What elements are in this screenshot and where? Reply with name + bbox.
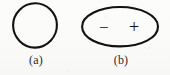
figure-panel-b: − + (b): [72, 0, 170, 75]
figure-panel-a: (a): [0, 0, 72, 75]
plus-sign: +: [129, 18, 139, 36]
plain-circle-shape: [0, 0, 72, 52]
caption-b: (b): [72, 53, 170, 67]
minus-sign: −: [99, 19, 109, 36]
figure-root: (a) − + (b): [0, 0, 170, 75]
polarized-ellipse-shape: [72, 0, 170, 52]
caption-a: (a): [0, 53, 72, 67]
